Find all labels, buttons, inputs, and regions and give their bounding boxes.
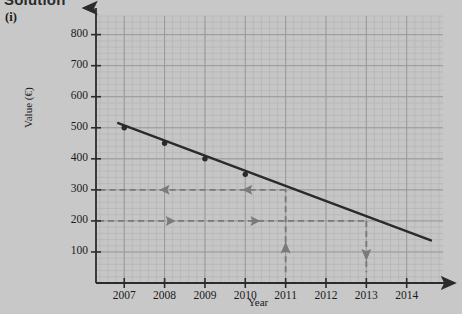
x-tick-label: 2013 <box>345 289 387 301</box>
y-tick-label: 100 <box>50 244 88 256</box>
x-tick-label: 2009 <box>184 289 226 301</box>
x-tick-label: 2008 <box>144 289 186 301</box>
data-point <box>202 156 207 161</box>
y-tick-label: 700 <box>50 58 88 70</box>
y-tick-label: 800 <box>50 27 88 39</box>
x-tick-label: 2010 <box>224 289 266 301</box>
y-tick-label: 400 <box>50 151 88 163</box>
x-tick-label: 2012 <box>305 289 347 301</box>
chart-page: Solution (i) Value (€) Year 100200300400… <box>0 0 462 314</box>
x-tick-label: 2011 <box>265 289 307 301</box>
data-point <box>243 172 248 177</box>
data-point <box>162 141 167 146</box>
y-axis-title: Value (€) <box>22 87 34 128</box>
x-tick-label: 2014 <box>386 289 428 301</box>
x-tick-label: 2007 <box>103 289 145 301</box>
y-tick-label: 500 <box>50 120 88 132</box>
y-tick-label: 600 <box>50 89 88 101</box>
y-tick-label: 300 <box>50 182 88 194</box>
data-point <box>122 125 127 130</box>
y-tick-label: 200 <box>50 213 88 225</box>
